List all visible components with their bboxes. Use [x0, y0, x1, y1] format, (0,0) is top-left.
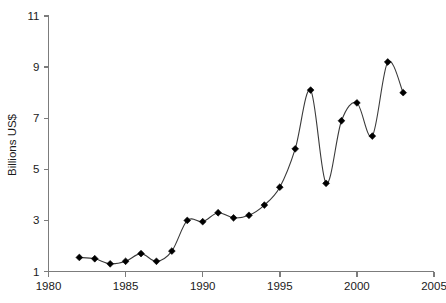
- data-point-2000: [354, 99, 361, 106]
- data-point-1992: [230, 214, 237, 221]
- x-tick-label-2000: 2000: [344, 280, 370, 292]
- data-point-1999: [338, 117, 345, 124]
- x-tick-label-1980: 1980: [36, 280, 62, 292]
- y-tick-label-7: 7: [33, 112, 39, 124]
- data-point-1997: [307, 87, 314, 94]
- y-tick-label-11: 11: [28, 10, 40, 22]
- x-tick-label-1995: 1995: [267, 280, 293, 292]
- data-point-1983: [91, 255, 98, 262]
- y-axis-title: Billions US$: [6, 113, 18, 176]
- x-tick-label-1985: 1985: [113, 280, 139, 292]
- x-tick-group: 198019851990199520002005: [36, 272, 446, 292]
- series-line-billions-usd: [79, 61, 403, 264]
- data-point-1995: [276, 184, 283, 191]
- data-point-1986: [138, 250, 145, 257]
- y-tick-label-9: 9: [33, 61, 39, 73]
- x-tick-label-2005: 2005: [421, 280, 446, 292]
- data-point-2003: [400, 89, 407, 96]
- data-point-1990: [199, 218, 206, 225]
- data-point-1987: [153, 258, 160, 265]
- y-tick-label-5: 5: [33, 163, 39, 175]
- x-axis: 198019851990199520002005: [36, 272, 446, 292]
- data-point-markers: [76, 59, 407, 268]
- line-chart: 1357911 Billions US$ 1980198519901995200…: [0, 0, 446, 303]
- data-point-1993: [246, 212, 253, 219]
- data-point-1996: [292, 145, 299, 152]
- y-tick-group: 1357911: [28, 10, 49, 278]
- data-point-1991: [215, 209, 222, 216]
- data-point-2001: [369, 133, 376, 140]
- data-point-2002: [384, 59, 391, 66]
- x-tick-label-1990: 1990: [190, 280, 216, 292]
- y-tick-label-3: 3: [33, 214, 39, 226]
- data-point-1985: [122, 258, 129, 265]
- y-axis: 1357911 Billions US$: [6, 10, 49, 278]
- data-point-1982: [76, 254, 83, 261]
- y-tick-label-1: 1: [33, 266, 39, 278]
- chart-container: 1357911 Billions US$ 1980198519901995200…: [0, 0, 446, 303]
- data-point-1984: [107, 260, 114, 267]
- plot-area: [76, 59, 407, 268]
